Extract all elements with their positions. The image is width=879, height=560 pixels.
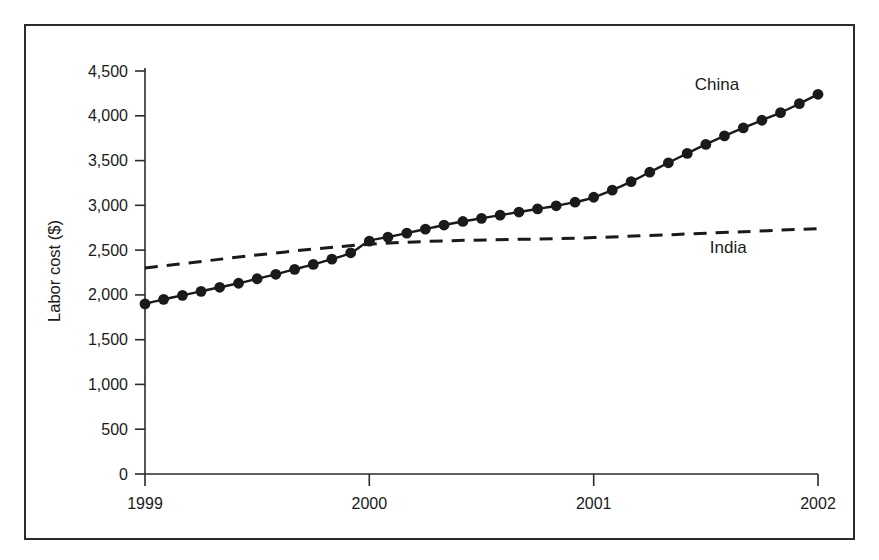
y-tick-label-1000: 1,000 <box>88 376 128 393</box>
data-point-marker <box>700 139 711 150</box>
data-point-marker <box>345 247 356 258</box>
data-point-marker <box>607 185 618 196</box>
data-point-marker <box>252 273 263 284</box>
line-chart-plot: 0 500 1,000 1,500 2,000 2,500 3,000 3,50… <box>0 0 879 560</box>
data-point-marker <box>457 216 468 227</box>
x-tick-label-2002: 2002 <box>800 495 836 512</box>
y-tick-label-2500: 2,500 <box>88 242 128 259</box>
x-tick-label-1999: 1999 <box>127 495 163 512</box>
data-point-marker <box>738 122 749 133</box>
data-point-marker <box>439 220 450 231</box>
data-point-marker <box>270 269 281 280</box>
data-point-marker <box>420 224 431 235</box>
data-point-marker <box>140 298 151 309</box>
data-point-marker <box>308 259 319 270</box>
data-point-marker <box>532 204 543 215</box>
y-tick-label-0: 0 <box>119 466 128 483</box>
data-point-marker <box>663 157 674 168</box>
data-point-marker <box>570 197 581 208</box>
data-point-marker <box>682 148 693 159</box>
y-tick-label-4500: 4,500 <box>88 63 128 80</box>
data-point-marker <box>514 207 525 218</box>
y-axis-title: Labor cost ($) <box>45 220 63 322</box>
data-point-marker <box>757 115 768 126</box>
y-tick-label-500: 500 <box>101 421 128 438</box>
data-point-marker <box>158 294 169 305</box>
data-point-marker <box>588 192 599 203</box>
x-tick-label-2001: 2001 <box>576 495 612 512</box>
series-label-china: China <box>695 75 740 94</box>
series-line-china <box>145 94 818 304</box>
data-point-marker <box>626 176 637 187</box>
y-tick-marks <box>135 71 145 474</box>
x-tick-label-2000: 2000 <box>352 495 388 512</box>
y-tick-label-2000: 2,000 <box>88 286 128 303</box>
data-point-marker <box>401 228 412 239</box>
data-point-marker <box>794 98 805 109</box>
data-point-marker <box>177 290 188 301</box>
series-markers-china <box>140 89 824 309</box>
y-tick-label-3000: 3,000 <box>88 197 128 214</box>
series-label-india: India <box>710 238 747 257</box>
data-point-marker <box>233 278 244 289</box>
y-tick-label-4000: 4,000 <box>88 107 128 124</box>
x-tick-marks <box>145 474 818 486</box>
data-point-marker <box>364 236 375 247</box>
data-point-marker <box>383 232 394 243</box>
data-point-marker <box>644 167 655 178</box>
data-point-marker <box>196 286 207 297</box>
data-point-marker <box>476 213 487 224</box>
data-point-marker <box>813 89 824 100</box>
data-point-marker <box>289 264 300 275</box>
data-point-marker <box>775 107 786 118</box>
data-point-marker <box>326 254 337 265</box>
data-point-marker <box>719 131 730 142</box>
data-point-marker <box>551 200 562 211</box>
data-point-marker <box>495 210 506 221</box>
y-tick-label-1500: 1,500 <box>88 331 128 348</box>
y-tick-label-3500: 3,500 <box>88 152 128 169</box>
chart-figure: 0 500 1,000 1,500 2,000 2,500 3,000 3,50… <box>0 0 879 560</box>
data-point-marker <box>214 282 225 293</box>
